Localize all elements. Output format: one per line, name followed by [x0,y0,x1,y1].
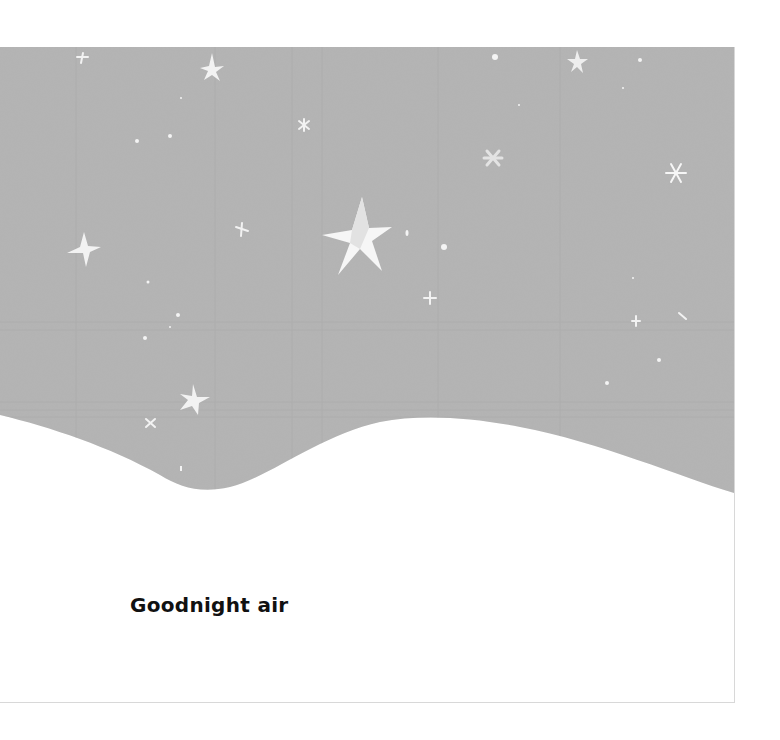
book-page: Goodnight air [0,47,735,703]
night-sky-illustration [0,47,734,507]
page-caption: Goodnight air [130,593,289,617]
